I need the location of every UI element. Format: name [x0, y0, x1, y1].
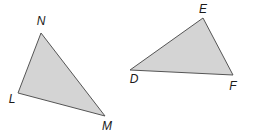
triangle-lmn: N L M — [9, 14, 112, 133]
vertex-label-e: E — [199, 2, 208, 16]
vertex-label-d: D — [130, 72, 139, 86]
triangle-def: E D F — [130, 2, 238, 93]
triangle-lmn-shape — [18, 33, 105, 116]
vertex-label-n: N — [37, 14, 46, 28]
vertex-label-f: F — [229, 79, 237, 93]
vertex-label-m: M — [102, 119, 112, 133]
diagram-canvas: N L M E D F — [0, 0, 254, 139]
vertex-label-l: L — [9, 92, 16, 106]
triangle-def-shape — [130, 18, 233, 75]
